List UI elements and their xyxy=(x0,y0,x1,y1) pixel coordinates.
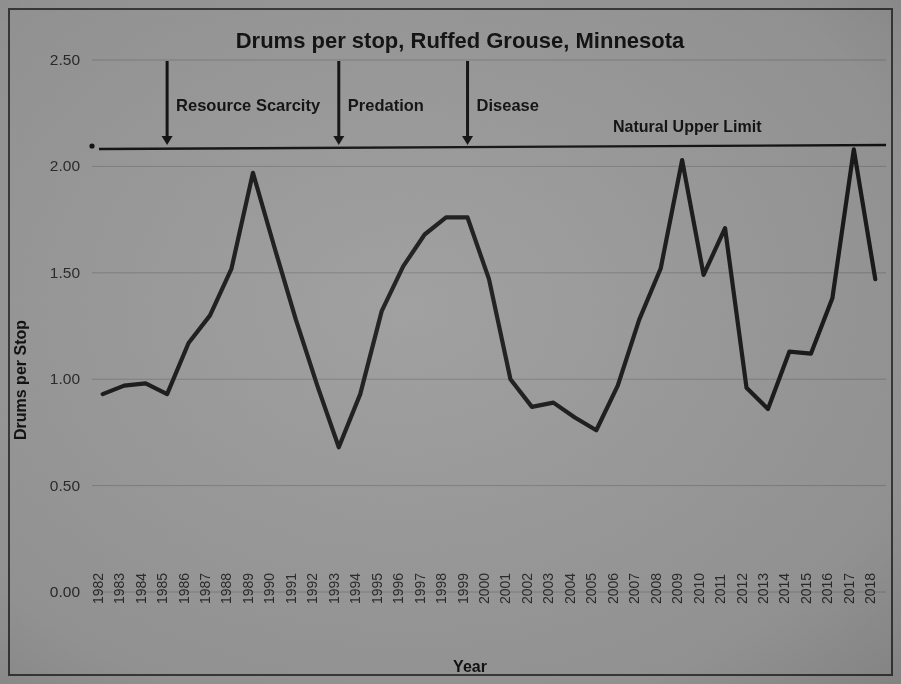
x-axis-tick-label: 1985 xyxy=(154,573,170,604)
y-axis-tick-label: 2.50 xyxy=(50,51,81,68)
y-axis-tick-label: 1.00 xyxy=(50,370,81,387)
x-axis-tick-label: 1984 xyxy=(133,573,149,604)
x-axis-tick-label: 1988 xyxy=(218,573,234,604)
annotation-label: Predation xyxy=(348,96,424,114)
natural-upper-limit-line xyxy=(99,145,886,149)
y-axis-tick-label-group: 0.000.501.001.502.002.50 xyxy=(50,51,81,600)
x-axis-tick-label: 1986 xyxy=(176,573,192,604)
x-axis-tick-label: 2010 xyxy=(691,573,707,604)
x-axis-tick-label: 2004 xyxy=(562,573,578,604)
x-axis-tick-label: 2015 xyxy=(798,573,814,604)
y-axis-tick-label: 2.00 xyxy=(50,157,81,174)
annotation-label: Disease xyxy=(477,96,539,114)
x-axis-tick-label: 2008 xyxy=(648,573,664,604)
annotation-group: Resource ScarcityPredationDisease xyxy=(162,61,539,145)
ruffed-grouse-line-chart: 0.000.501.001.502.002.50 198219831984198… xyxy=(0,0,901,684)
annotation-arrow-head xyxy=(162,136,173,145)
drums-per-stop-line xyxy=(103,149,876,447)
x-axis-title: Year xyxy=(453,658,487,675)
x-axis-tick-label: 2011 xyxy=(712,574,728,604)
x-axis-tick-label: 2001 xyxy=(497,573,513,604)
annotation-label: Resource Scarcity xyxy=(176,96,321,114)
x-axis-tick-label: 2003 xyxy=(540,573,556,604)
x-axis-tick-label: 1999 xyxy=(455,573,471,604)
x-axis-tick-label: 2014 xyxy=(776,573,792,604)
x-axis-tick-label: 1997 xyxy=(412,573,428,604)
x-axis-tick-label: 2009 xyxy=(669,573,685,604)
x-axis-tick-label: 1983 xyxy=(111,573,127,604)
x-axis-tick-label: 1998 xyxy=(433,573,449,604)
chart-page: 0.000.501.001.502.002.50 198219831984198… xyxy=(0,0,901,684)
x-axis-tick-label: 2005 xyxy=(583,573,599,604)
chart-title: Drums per stop, Ruffed Grouse, Minnesota xyxy=(236,28,685,53)
y-axis-tick-label: 1.50 xyxy=(50,264,81,281)
x-axis-tick-label: 2017 xyxy=(841,573,857,604)
annotation-arrow-head xyxy=(462,136,473,145)
x-axis-tick-label: 2006 xyxy=(605,573,621,604)
x-axis-tick-label: 1993 xyxy=(326,573,342,604)
gridline-group xyxy=(92,60,886,592)
x-axis-tick-label: 1992 xyxy=(304,573,320,604)
x-axis-tick-label: 2018 xyxy=(862,573,878,604)
x-axis-tick-label: 2013 xyxy=(755,573,771,604)
y-axis-tick-label: 0.50 xyxy=(50,477,81,494)
y-axis-title: Drums per Stop xyxy=(12,320,29,440)
x-axis-tick-label: 1989 xyxy=(240,573,256,604)
limit-line-start-dot xyxy=(89,143,94,148)
x-axis-tick-label-group: 1982198319841985198619871988198919901991… xyxy=(90,573,879,604)
x-axis-tick-label: 1994 xyxy=(347,573,363,604)
annotation-arrow-head xyxy=(333,136,344,145)
natural-upper-limit-group: Natural Upper Limit xyxy=(89,118,886,149)
x-axis-tick-label: 1990 xyxy=(261,573,277,604)
x-axis-tick-label: 1991 xyxy=(283,573,299,604)
x-axis-tick-label: 2002 xyxy=(519,573,535,604)
x-axis-tick-label: 2007 xyxy=(626,573,642,604)
x-axis-tick-label: 1987 xyxy=(197,573,213,604)
y-axis-tick-label: 0.00 xyxy=(50,583,81,600)
x-axis-tick-label: 1996 xyxy=(390,573,406,604)
natural-upper-limit-label: Natural Upper Limit xyxy=(613,118,762,135)
x-axis-tick-label: 1982 xyxy=(90,573,106,604)
x-axis-tick-label: 2000 xyxy=(476,573,492,604)
x-axis-tick-label: 2016 xyxy=(819,573,835,604)
x-axis-tick-label: 1995 xyxy=(369,573,385,604)
x-axis-tick-label: 2012 xyxy=(734,573,750,604)
